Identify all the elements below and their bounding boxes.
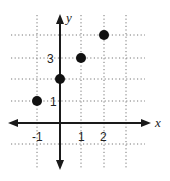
- data-point: [76, 53, 86, 63]
- x-axis: [8, 119, 151, 127]
- grid-vertical: [37, 15, 126, 168]
- x-tick-neg1: -1: [32, 130, 43, 144]
- y-tick-1: 1: [50, 95, 57, 109]
- grid-horizontal: [11, 35, 145, 144]
- x-tick-1: 1: [78, 130, 85, 144]
- y-axis-label: y: [64, 10, 72, 25]
- y-axis-down-arrow-icon: [56, 160, 64, 170]
- x-tick-2: 2: [100, 130, 107, 144]
- x-axis-label: x: [154, 115, 161, 130]
- data-point: [55, 74, 65, 84]
- coordinate-plane: y x -1 1 2 3 1: [0, 0, 170, 181]
- y-axis-up-arrow-icon: [56, 14, 64, 24]
- data-point: [32, 96, 42, 106]
- data-points: [32, 30, 109, 106]
- y-tick-3: 3: [47, 52, 54, 66]
- data-point: [99, 30, 109, 40]
- y-axis: [56, 14, 64, 170]
- x-axis-left-arrow-icon: [8, 119, 18, 127]
- x-axis-right-arrow-icon: [141, 119, 151, 127]
